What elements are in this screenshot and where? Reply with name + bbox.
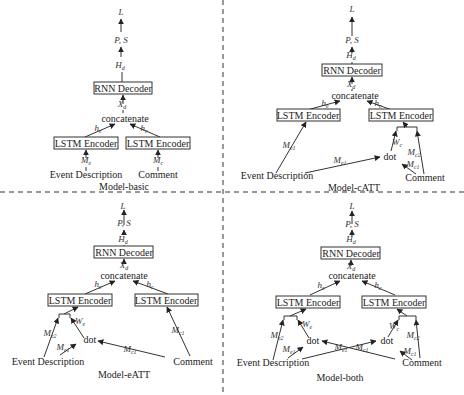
lstm-encoder-event-label: LSTM Encoder [277,110,340,121]
lstm-encoder-event-label: LSTM Encoder [49,295,112,306]
lstm-encoder-event-label: LSTM Encoder [55,138,118,149]
hc-label: hc [374,280,382,291]
xd-label: Xd [117,99,128,110]
me1-to-dot-label: Me1 [332,155,346,166]
event-description-label: Event Description [12,356,84,367]
me1-cross-label: Me1 [333,342,347,353]
rnn-decoder-label: RNN Decoder [95,247,153,258]
me1-label: Me1 [55,342,69,353]
lstm-encoder-event-label: LSTM Encoder [277,297,340,308]
comment-label: Comment [138,169,178,180]
mc2-label: Mc2 [406,147,420,158]
he-label: he [94,123,102,134]
event-description-label: Event Description [50,169,122,180]
hc-label: hc [140,123,148,134]
rnn-decoder-label: RNN Decoder [323,65,381,76]
output-label: L [119,201,125,211]
lstm-encoder-comment-label: LSTM Encoder [370,110,433,121]
he-label: he [317,280,325,291]
hc-label: hc [374,98,382,109]
me2-label: Me2 [42,328,56,339]
wc-label: Wc [389,321,400,332]
mc-label: Mc [152,155,164,166]
event-description-label: Event Description [241,170,313,181]
he-label: he [321,98,329,109]
concatenate-label: concatenate [328,270,376,281]
ps-label: P, S [116,218,131,228]
we-label: We [302,319,313,330]
panel-model-eatt: L P, S Hd RNN Decoder Xd concatenate he … [12,201,213,380]
model-architectures-figure: L P, S Hd RNN Decoder Xd concatenate he … [0,0,464,395]
hd-label: Hd [345,50,357,61]
hc-label: hc [146,279,154,290]
me1-label: Me1 [281,140,295,151]
hd-label: Hd [117,234,129,245]
me1-label: Me1 [281,344,295,355]
ps-label: P, S [344,35,359,45]
caption-model-eatt: Model-eATT [98,369,150,380]
dot-op-label: dot [84,334,97,345]
comment-label: Comment [402,357,442,368]
output-label: L [348,4,354,14]
rnn-decoder-label: RNN Decoder [322,248,380,259]
we-label: We [75,316,86,327]
mc1-label: Mc1 [402,346,416,357]
event-description-label: Event Description [237,357,309,368]
lstm-encoder-comment-label: LSTM Encoder [127,138,190,149]
output-label: L [348,201,354,211]
caption-model-catt: Model-cATT [328,182,380,193]
comment-label: Comment [405,172,445,183]
caption-model-both: Model-both [316,372,363,383]
lstm-encoder-comment-label: LSTM Encoder [135,295,198,306]
hd-label: Hd [345,234,357,245]
comment-label: Comment [173,356,213,367]
lstm-encoder-comment-label: LSTM Encoder [363,297,426,308]
dot-op-label-comment: dot [381,335,394,346]
xd-label: Xd [346,79,357,90]
concatenate-label: concatenate [100,270,148,281]
wc-label: Wc [392,137,403,148]
ps-label: P, S [344,219,359,229]
caption-model-basic: Model-basic [99,181,150,192]
mc1-label: Mc1 [170,325,184,336]
ps-label: P, S [113,35,128,45]
mc1-label: Mc1 [405,159,419,170]
concatenate-label: concatenate [331,90,379,101]
output-label: L [117,7,123,17]
dot-op-label-event: dot [307,335,320,346]
hd-label: Hd [114,60,126,71]
mc1-to-dot-label: Mc1 [122,344,136,355]
rnn-decoder-label: RNN Decoder [94,83,152,94]
me2-label: Me2 [269,330,283,341]
dot-op-label: dot [384,151,397,162]
panel-model-basic: L P, S Hd RNN Decoder Xd concatenate he … [50,7,190,192]
panel-model-both: L P, S Hd RNN Decoder Xd concatenate he … [237,201,442,383]
panel-model-catt: L P, S Hd RNN Decoder Xd concatenate he … [241,4,445,193]
me-label: Me [80,155,92,166]
